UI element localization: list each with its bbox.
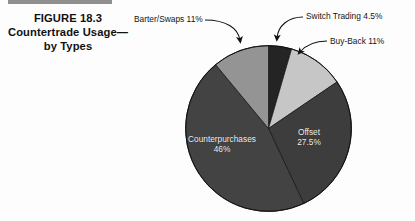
- slice-label-counterpurchases-value: 46%: [168, 144, 276, 154]
- slice-label-offset-name: Offset: [298, 127, 320, 137]
- callout-label-buy-back: Buy-Back 11%: [330, 36, 384, 47]
- callout-label-switch-trading: Switch Trading 4.5%: [306, 11, 382, 22]
- leader-arrow-switch-trading: [277, 17, 303, 38]
- leader-arrow-barter-swaps: [205, 20, 240, 40]
- figure-title-line-2: by Types: [4, 39, 132, 53]
- slice-label-offset-value: 27.5%: [283, 137, 335, 147]
- figure-title-line-1: Countertrade Usage—: [4, 25, 132, 39]
- slice-label-counterpurchases: Counterpurchases 46%: [168, 134, 276, 154]
- scan-artifact-bar: [8, 0, 112, 4]
- figure-page: FIGURE 18.3 Countertrade Usage— by Types…: [0, 0, 415, 221]
- figure-number: FIGURE 18.3: [4, 11, 132, 25]
- slice-label-offset: Offset 27.5%: [283, 127, 335, 147]
- slice-label-counterpurchases-name: Counterpurchases: [188, 134, 256, 144]
- callout-label-barter-swaps: Barter/Swaps 11%: [134, 14, 203, 25]
- figure-title-block: FIGURE 18.3 Countertrade Usage— by Types: [4, 11, 132, 54]
